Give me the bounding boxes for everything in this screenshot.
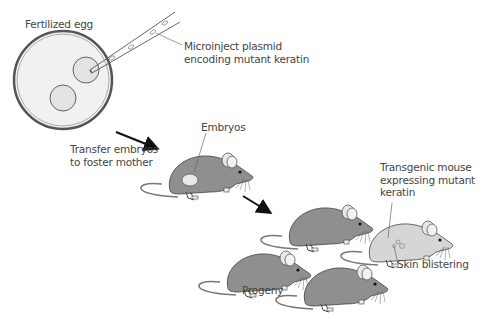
label-skin-blistering: Skin blistering xyxy=(397,258,469,271)
label-transfer-line1: Transfer embryos xyxy=(70,143,158,156)
progeny-mouse-1 xyxy=(261,205,373,252)
label-microinject-line2: encoding mutant keratin xyxy=(184,53,309,66)
label-embryos: Embryos xyxy=(201,121,246,134)
arrow-mother-to-progeny xyxy=(243,196,269,212)
label-transfer-embryos: Transfer embryos to foster mother xyxy=(70,143,158,168)
fertilized-egg xyxy=(14,31,112,129)
label-transgenic-line3: keratin xyxy=(380,186,475,199)
label-microinject: Microinject plasmid encoding mutant kera… xyxy=(184,40,309,65)
label-transfer-line2: to foster mother xyxy=(70,156,158,169)
label-fertilized-egg: Fertilized egg xyxy=(25,18,93,31)
label-microinject-line1: Microinject plasmid xyxy=(184,40,309,53)
label-transgenic-mouse: Transgenic mouse expressing mutant kerat… xyxy=(380,161,475,199)
label-transgenic-line1: Transgenic mouse xyxy=(380,161,475,174)
label-progeny: Progeny xyxy=(242,284,283,297)
label-transgenic-line2: expressing mutant xyxy=(380,174,475,187)
